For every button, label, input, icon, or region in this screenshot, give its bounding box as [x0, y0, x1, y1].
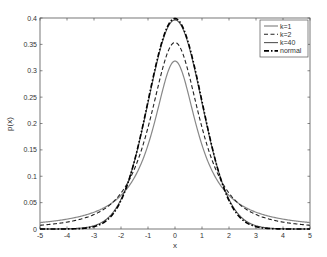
legend-item-k1: k=1	[280, 23, 292, 30]
y-axis-label: p(x)	[5, 117, 14, 131]
x-tick-label: -1	[145, 232, 151, 239]
legend: k=1k=2k=40normal	[260, 20, 308, 57]
x-tick-label: 4	[281, 232, 285, 239]
x-tick-label: -3	[91, 232, 97, 239]
legend-item-normal: normal	[280, 47, 302, 54]
x-tick-label: 1	[200, 232, 204, 239]
x-tick-label: -5	[37, 232, 43, 239]
legend-item-k2: k=2	[280, 31, 292, 38]
y-tick-label: 0.35	[23, 41, 37, 48]
y-tick-label: 0.3	[27, 67, 37, 74]
x-tick-label: 0	[173, 232, 177, 239]
y-tick-label: 0.4	[27, 15, 37, 22]
x-tick-label: 2	[227, 232, 231, 239]
y-tick-label: 0.15	[23, 146, 37, 153]
y-tick-label: 0.05	[23, 199, 37, 206]
legend-item-k40: k=40	[280, 39, 295, 46]
x-tick-label: -4	[64, 232, 70, 239]
y-tick-label: 0.25	[23, 94, 37, 101]
y-tick-label: 0	[33, 226, 37, 233]
x-axis-label: x	[173, 241, 177, 250]
x-tick-label: -2	[118, 232, 124, 239]
y-tick-label: 0.2	[27, 120, 37, 127]
x-tick-label: 3	[254, 232, 258, 239]
x-tick-label: 5	[308, 232, 312, 239]
t-distribution-chart: -5-4-3-2-101234500.050.10.150.20.250.30.…	[0, 0, 327, 257]
y-tick-label: 0.1	[27, 173, 37, 180]
